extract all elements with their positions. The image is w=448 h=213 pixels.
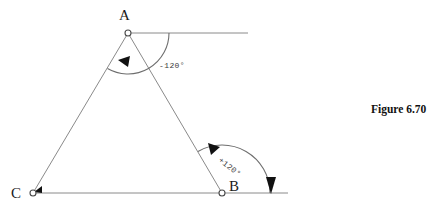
vertex-marker-c xyxy=(30,190,36,196)
vertex-marker-b xyxy=(219,190,225,196)
vertex-label-b: B xyxy=(229,178,239,194)
edge-a-to-c xyxy=(33,33,128,193)
vertex-markers xyxy=(30,30,225,196)
angle-label-at-a: -120° xyxy=(159,61,185,70)
arrowhead-toward-c-on-ac xyxy=(118,56,130,67)
vertex-label-a: A xyxy=(119,7,130,23)
figure-container: A B C -120° +120° Figure 6.70 xyxy=(0,0,448,213)
angle-label-at-b: +120° xyxy=(217,155,243,178)
vertex-marker-a xyxy=(125,30,131,36)
vertex-label-c: C xyxy=(11,185,21,201)
arrowhead-down-at-baseline xyxy=(266,177,276,194)
figure-caption: Figure 6.70 xyxy=(371,103,426,115)
edge-a-to-b xyxy=(128,33,222,193)
angle-arcs xyxy=(108,33,271,193)
angle-labels: -120° +120° xyxy=(159,61,243,179)
